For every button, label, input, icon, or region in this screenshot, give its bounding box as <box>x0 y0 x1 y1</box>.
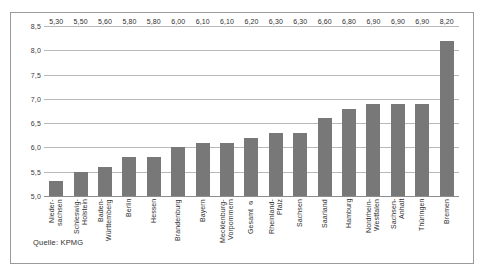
x-axis-category-label: Bayern <box>199 199 207 257</box>
bar-value-label: 6,30 <box>269 18 283 25</box>
x-axis-category-label: Rheinland- Pfalz <box>268 199 284 257</box>
bar-value-label: 5,60 <box>98 18 112 25</box>
x-label-slot: Sachsen- Anhalt <box>386 199 410 257</box>
bar[interactable]: 6,10 <box>220 143 234 196</box>
bar-series: 5,305,505,605,805,806,006,106,106,206,30… <box>44 26 459 196</box>
bar-slot: 6,90 <box>386 26 410 196</box>
bar-slot: 6,90 <box>361 26 385 196</box>
bar-slot: 6,90 <box>410 26 434 196</box>
bar[interactable]: 6,30 <box>293 133 307 196</box>
x-axis-category-label: Schleswig- Holstein <box>73 199 89 257</box>
bar-value-label: 6,30 <box>293 18 307 25</box>
bar-value-label: 5,50 <box>74 18 88 25</box>
x-label-slot: Thüringen <box>410 199 434 257</box>
bar-value-label: 6,60 <box>318 18 332 25</box>
bar-value-label: 5,30 <box>49 18 63 25</box>
bar[interactable]: 6,00 <box>171 147 185 196</box>
bar[interactable]: 6,20 <box>244 138 258 196</box>
y-axis-tick-label: 7,0 <box>31 96 41 103</box>
y-axis-tick-label: 6,5 <box>31 120 41 127</box>
axis-baseline: 5,0 <box>44 196 459 197</box>
x-label-slot: Sachsen <box>288 199 312 257</box>
bar-value-label: 6,00 <box>171 18 185 25</box>
x-axis-category-label: Sachsen <box>296 199 304 257</box>
bar-value-label: 5,80 <box>122 18 136 25</box>
x-label-slot: Brandenburg <box>166 199 190 257</box>
x-axis-category-label: Hamburg <box>345 199 353 257</box>
x-label-slot: Mecklenburg- Vorpommern <box>215 199 239 257</box>
y-axis-tick-label: 8,5 <box>31 23 41 30</box>
bar[interactable]: 6,80 <box>342 109 356 196</box>
x-label-slot: Berlin <box>117 199 141 257</box>
y-axis-tick-label: 6,0 <box>31 144 41 151</box>
x-label-slot: Rheinland- Pfalz <box>264 199 288 257</box>
x-label-slot: Hamburg <box>337 199 361 257</box>
bar[interactable]: 6,10 <box>196 143 210 196</box>
bar-value-label: 6,90 <box>415 18 429 25</box>
bar-value-label: 6,90 <box>391 18 405 25</box>
x-label-slot: Baden- Württemberg <box>93 199 117 257</box>
x-axis-category-label: Baden- Württemberg <box>97 199 113 257</box>
bar-slot: 6,80 <box>337 26 361 196</box>
bar-value-label: 8,20 <box>440 18 454 25</box>
x-axis-category-label: Nordrhein- Westfalen <box>365 199 381 257</box>
bar-slot: 8,20 <box>435 26 459 196</box>
chart-frame: 8,58,07,57,06,56,05,55,0 5,305,505,605,8… <box>10 12 474 264</box>
bar-slot: 5,30 <box>44 26 68 196</box>
bar[interactable]: 6,90 <box>366 104 380 196</box>
x-label-slot: Schleswig- Holstein <box>69 199 93 257</box>
bar-slot: 6,30 <box>288 26 312 196</box>
bar[interactable]: 6,30 <box>269 133 283 196</box>
x-axis-category-label: Bremen <box>443 199 451 257</box>
bar-slot: 6,10 <box>191 26 215 196</box>
x-label-slot: Saarland <box>313 199 337 257</box>
bar[interactable]: 5,80 <box>122 157 136 196</box>
bar-value-label: 6,10 <box>196 18 210 25</box>
x-axis-category-label: Thüringen <box>418 199 426 257</box>
bar-slot: 6,00 <box>166 26 190 196</box>
bar[interactable]: 8,20 <box>440 41 454 196</box>
y-axis-tick-label: 8,0 <box>31 47 41 54</box>
x-label-slot: Hessen <box>142 199 166 257</box>
bar-value-label: 6,90 <box>366 18 380 25</box>
x-axis-category-label: Saarland <box>321 199 329 257</box>
x-label-slot: Bremen <box>435 199 459 257</box>
bar-value-label: 5,80 <box>147 18 161 25</box>
bar[interactable]: 5,60 <box>98 167 112 196</box>
bar[interactable]: 5,50 <box>74 172 88 196</box>
x-axis-category-label: Gesamt ⌀ <box>247 199 255 257</box>
bar-slot: 6,10 <box>215 26 239 196</box>
bar-slot: 6,60 <box>313 26 337 196</box>
bar-slot: 5,80 <box>117 26 141 196</box>
y-axis-tick-label: 5,5 <box>31 169 41 176</box>
bar-slot: 6,20 <box>239 26 263 196</box>
bar-value-label: 6,80 <box>342 18 356 25</box>
y-axis-tick-label: 5,0 <box>31 193 41 200</box>
bar[interactable]: 6,60 <box>318 118 332 196</box>
x-axis-category-label: Hessen <box>150 199 158 257</box>
bar[interactable]: 5,30 <box>49 181 63 196</box>
x-axis-category-label: Berlin <box>125 199 133 257</box>
x-axis-category-label: Nieder- sachsen <box>48 199 64 257</box>
x-label-slot: Bayern <box>191 199 215 257</box>
x-axis-category-label: Sachsen- Anhalt <box>390 199 406 257</box>
bar[interactable]: 5,80 <box>147 157 161 196</box>
bar-slot: 5,60 <box>93 26 117 196</box>
y-axis-tick-label: 7,5 <box>31 72 41 79</box>
x-axis-category-label: Brandenburg <box>174 199 182 257</box>
bar-value-label: 6,10 <box>220 18 234 25</box>
bar-slot: 5,80 <box>142 26 166 196</box>
x-axis-category-label: Mecklenburg- Vorpommern <box>219 199 235 257</box>
x-label-slot: Nordrhein- Westfalen <box>361 199 385 257</box>
x-axis-labels: Nieder- sachsenSchleswig- HolsteinBaden-… <box>44 199 459 257</box>
source-note: Quelle: KPMG <box>33 238 83 247</box>
bar[interactable]: 6,90 <box>415 104 429 196</box>
bar-slot: 6,30 <box>264 26 288 196</box>
bar-value-label: 6,20 <box>244 18 258 25</box>
x-label-slot: Gesamt ⌀ <box>239 199 263 257</box>
bar-slot: 5,50 <box>69 26 93 196</box>
bar[interactable]: 6,90 <box>391 104 405 196</box>
x-label-slot: Nieder- sachsen <box>44 199 68 257</box>
